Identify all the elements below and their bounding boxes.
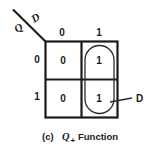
caption-text: Function — [78, 131, 118, 142]
caption-subscript: + — [71, 136, 76, 145]
cell-q1-d0: 0 — [60, 93, 66, 104]
cell-q1-d1: 1 — [96, 93, 102, 104]
row-header-1: 1 — [34, 91, 40, 102]
kmap-canvas: Q D 0 1 0 1 D 0 1 0 1 (c) Q + Function — [0, 0, 151, 150]
grouping-label-d: D — [136, 93, 143, 104]
grouping-leader-line — [110, 98, 132, 102]
column-header-1: 1 — [96, 27, 102, 38]
cell-q0-d1: 1 — [96, 55, 102, 66]
caption-variable: Q — [62, 131, 70, 142]
kmap-figure: Q D 0 1 0 1 D 0 1 0 1 (c) Q + Function — [0, 0, 151, 150]
axis-label-column-variable: D — [28, 10, 42, 25]
row-header-0: 0 — [34, 54, 40, 65]
cell-q0-d0: 0 — [60, 55, 66, 66]
caption-index: (c) — [42, 131, 54, 142]
axis-label-row-variable: Q — [12, 20, 25, 34]
column-header-0: 0 — [59, 27, 65, 38]
